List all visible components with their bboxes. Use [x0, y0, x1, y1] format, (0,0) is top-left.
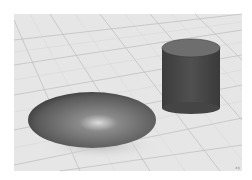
viewport[interactable]: xy	[0, 0, 252, 180]
cylinder-top	[162, 39, 220, 57]
scene-canvas	[0, 0, 252, 180]
ellipsoid	[28, 92, 156, 148]
axis-label: xy	[235, 165, 240, 170]
